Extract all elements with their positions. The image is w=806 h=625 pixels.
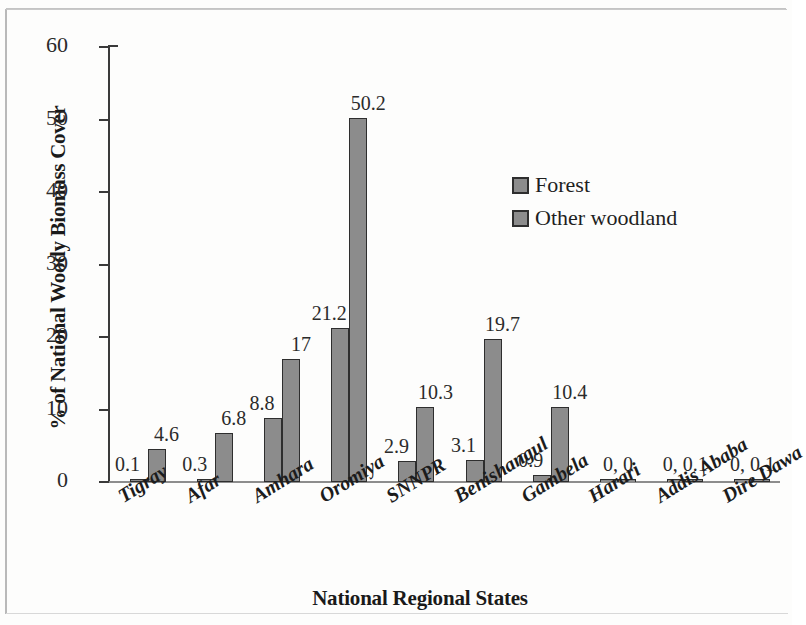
bar-label-snnpr-other-woodland: 10.3	[405, 381, 465, 404]
bar-label-oromiya-forest: 21.2	[307, 302, 351, 325]
y-axis-tick-label: 20	[8, 322, 68, 348]
bar-label-gambela-other-woodland: 10.4	[540, 381, 600, 404]
bar-label-tigray-other-woodland: 4.6	[137, 423, 197, 446]
y-axis-tick-label: 60	[8, 32, 68, 58]
plot-area: 0.14.60.36.88.81721.250.22.910.33.119.70…	[108, 47, 780, 482]
legend-swatch-icon	[512, 177, 529, 194]
y-axis-tick-label: 0	[8, 467, 68, 493]
legend-swatch-icon	[512, 210, 529, 227]
bar-label-benishangul-forest: 3.1	[442, 434, 486, 457]
bar-oromiya-forest	[331, 328, 349, 482]
bar-label-snnpr-forest: 2.9	[374, 435, 418, 458]
page-frame-bottom-edge	[6, 613, 788, 614]
legend-label: Forest	[535, 172, 590, 198]
x-axis-title: National Regional States	[180, 586, 660, 611]
bar-label-oromiya-other-woodland: 50.2	[338, 92, 398, 115]
bar-oromiya-other-woodland	[349, 118, 367, 482]
legend-label: Other woodland	[535, 205, 677, 231]
y-axis-tick-label: 30	[8, 250, 68, 276]
y-axis-tick-label: 10	[8, 395, 68, 421]
bar-label-amhara-forest: 8.8	[240, 392, 284, 415]
bar-label-amhara-other-woodland: 17	[271, 333, 331, 356]
bar-label-benishangul-other-woodland: 19.7	[473, 313, 533, 336]
legend-item-other-woodland: Other woodland	[512, 205, 677, 231]
y-axis-tick-label: 40	[8, 177, 68, 203]
legend-item-forest: Forest	[512, 172, 677, 198]
chart-legend: ForestOther woodland	[512, 172, 677, 238]
y-axis-tick-label: 50	[8, 105, 68, 131]
